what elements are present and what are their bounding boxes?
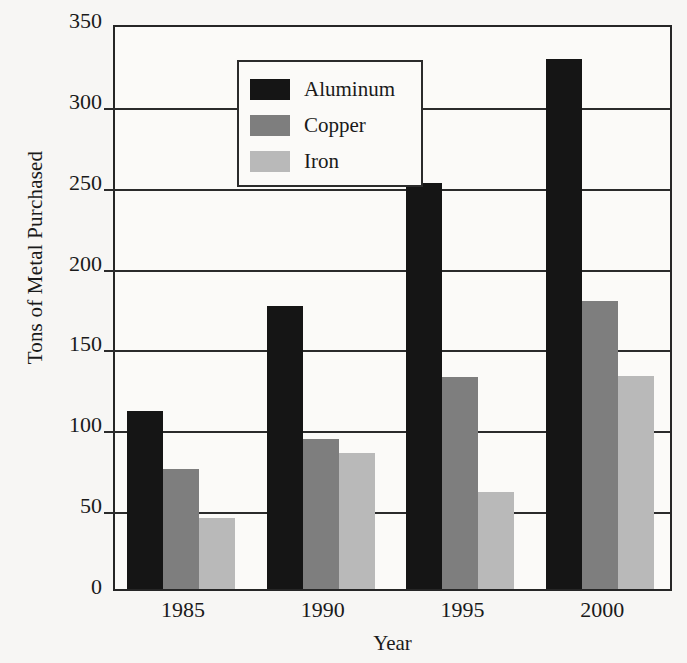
y-tick-mark <box>104 350 115 352</box>
legend-swatch-copper <box>250 115 290 136</box>
x-tick-label: 2000 <box>542 597 662 623</box>
y-tick-mark <box>104 108 115 110</box>
bar-copper-1990 <box>303 439 339 589</box>
x-tick-label: 1990 <box>263 597 383 623</box>
y-tick-label: 50 <box>16 495 102 517</box>
x-axis-title: Year <box>113 631 672 656</box>
bar-copper-1995 <box>442 377 478 589</box>
bar-aluminum-1990 <box>267 306 303 589</box>
gridline <box>115 270 670 272</box>
legend-swatch-iron <box>250 151 290 172</box>
bar-aluminum-1995 <box>406 183 442 589</box>
y-tick-label: 300 <box>16 91 102 113</box>
y-tick-label: 250 <box>16 172 102 194</box>
legend-swatch-aluminum <box>250 79 290 100</box>
y-tick-label: 350 <box>16 10 102 32</box>
bar-iron-1995 <box>478 492 514 589</box>
y-tick-mark <box>104 512 115 514</box>
bar-iron-2000 <box>618 376 654 589</box>
bar-aluminum-1985 <box>127 411 163 589</box>
x-tick-label: 1985 <box>123 597 243 623</box>
bar-iron-1985 <box>199 518 235 589</box>
y-tick-label: 200 <box>16 253 102 275</box>
y-tick-mark <box>104 431 115 433</box>
legend: Aluminum Copper Iron <box>237 60 423 187</box>
legend-label-aluminum: Aluminum <box>304 79 395 100</box>
bar-aluminum-2000 <box>546 59 582 589</box>
bar-copper-1985 <box>163 469 199 589</box>
gridline <box>115 189 670 191</box>
bar-copper-2000 <box>582 301 618 589</box>
legend-label-copper: Copper <box>304 115 366 136</box>
y-tick-label: 100 <box>16 414 102 436</box>
bar-chart-figure: Tons of Metal Purchased Year 05010015020… <box>0 0 687 663</box>
legend-item: Copper <box>239 107 421 143</box>
y-tick-label: 150 <box>16 333 102 355</box>
plot-area: Aluminum Copper Iron <box>113 25 672 591</box>
bar-iron-1990 <box>339 453 375 589</box>
y-tick-mark <box>104 270 115 272</box>
y-tick-label: 0 <box>16 576 102 598</box>
legend-item: Aluminum <box>239 71 421 107</box>
x-tick-label: 1995 <box>402 597 522 623</box>
legend-item: Iron <box>239 143 421 179</box>
y-tick-mark <box>104 189 115 191</box>
legend-label-iron: Iron <box>304 151 339 172</box>
